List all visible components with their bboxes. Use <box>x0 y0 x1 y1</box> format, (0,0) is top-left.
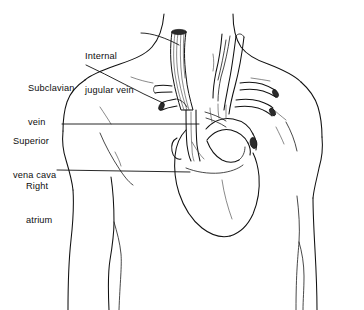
label-internal-jugular-vein-line2: jugular vein <box>85 85 134 96</box>
leader-right-atrium <box>57 170 190 172</box>
superior-vena-cava-vessel <box>186 110 200 161</box>
label-subclavian-vein-line1: Subclavian <box>28 83 74 94</box>
aortic-arch <box>206 104 258 162</box>
heart <box>172 130 260 237</box>
anatomy-figure: Internal jugular vein Subclavian vein Su… <box>0 0 364 310</box>
internal-jugular-vein-vessel <box>171 29 193 110</box>
label-internal-jugular-vein-line1: Internal <box>85 51 134 62</box>
label-right-atrium-line1: Right <box>26 181 52 192</box>
label-superior-vena-cava-line1: Superior <box>13 136 56 147</box>
label-right-atrium-line2: atrium <box>26 215 52 226</box>
label-right-atrium: Right atrium <box>26 158 52 249</box>
label-internal-jugular-vein: Internal jugular vein <box>85 28 134 119</box>
